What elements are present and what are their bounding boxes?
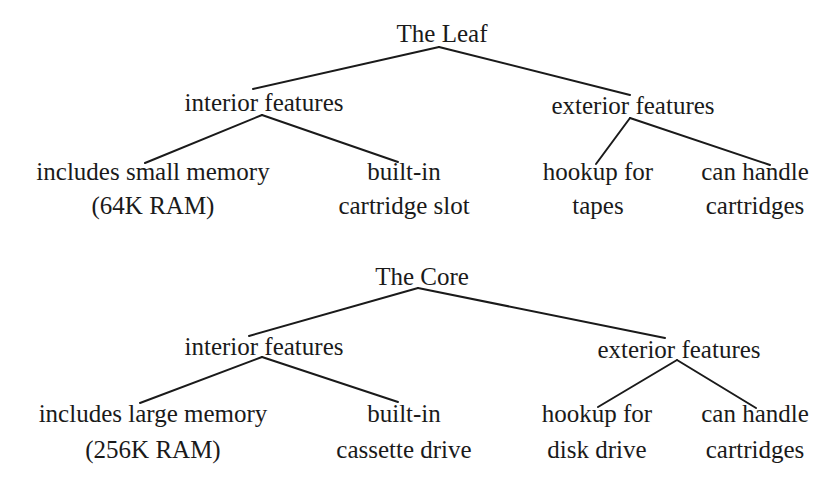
leaf-small-memory-line2: (64K RAM): [92, 192, 215, 220]
edge-core-to-interior: [249, 288, 418, 336]
leaf-large-memory-line1: includes large memory: [39, 400, 268, 427]
leaf-handle-cartridges-line1: can handle: [701, 158, 809, 185]
tree-the-core: The Core interior features exterior feat…: [39, 263, 809, 464]
leaf-handle-cartridges-line1: can handle: [701, 400, 809, 427]
edge-interior-to-memory: [140, 357, 262, 403]
leaf-cartridge-slot-line1: built-in: [367, 158, 441, 185]
leaf-cartridge-slot-line2: cartridge slot: [338, 192, 469, 219]
leaf-hookup-tapes-line1: hookup for: [543, 158, 654, 185]
leaf-large-memory-line2: (256K RAM): [85, 436, 220, 464]
leaf-hookup-tapes-line2: tapes: [572, 192, 623, 219]
edge-interior-to-cartridge-slot: [262, 115, 398, 162]
root-node-the-core: The Core: [375, 263, 469, 290]
leaf-handle-cartridges-line2: cartridges: [706, 436, 805, 463]
edge-leaf-to-interior: [253, 47, 439, 89]
leaf-cassette-drive-line1: built-in: [367, 400, 441, 427]
leaf-cassette-drive-line2: cassette drive: [336, 436, 471, 463]
node-interior-features: interior features: [185, 333, 344, 360]
leaf-hookup-disk-line1: hookup for: [542, 400, 653, 427]
root-node-the-leaf: The Leaf: [397, 20, 489, 47]
edge-leaf-to-exterior: [439, 47, 630, 95]
tree-diagrams: The Leaf interior features exterior feat…: [0, 0, 840, 485]
edge-interior-to-cassette-drive: [262, 357, 398, 402]
leaf-handle-cartridges-line2: cartridges: [706, 192, 805, 219]
edge-core-to-exterior: [418, 288, 665, 338]
leaf-small-memory-line1: includes small memory: [36, 158, 270, 185]
node-exterior-features: exterior features: [597, 336, 760, 363]
node-exterior-features: exterior features: [551, 92, 714, 119]
leaf-hookup-disk-line2: disk drive: [547, 436, 646, 463]
tree-the-leaf: The Leaf interior features exterior feat…: [36, 20, 808, 220]
node-interior-features: interior features: [185, 89, 344, 116]
edge-interior-to-memory: [145, 115, 262, 163]
